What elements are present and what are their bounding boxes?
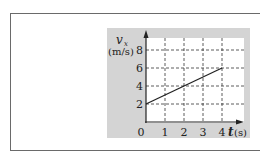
velocity-time-chart: 8 6 4 2 0 1 2 3 4 t (s) v x (m/s)	[0, 0, 260, 155]
x-tick-label: 3	[200, 126, 207, 139]
x-tick-label: 2	[181, 126, 188, 139]
y-tick-label: 8	[136, 44, 143, 57]
x-axis-unit: (s)	[234, 127, 247, 138]
y-axis-unit: (m/s)	[108, 46, 134, 57]
y-tick-label: 2	[136, 98, 143, 111]
x-tick-label: 4	[219, 126, 226, 139]
y-tick-label: 6	[136, 62, 143, 75]
y-axis-symbol: v	[116, 33, 123, 47]
x-tick-label: 1	[162, 126, 169, 139]
y-axis-arrow-icon	[144, 30, 149, 38]
x-tick-label: 0	[138, 126, 145, 139]
y-tick-label: 4	[136, 80, 143, 93]
